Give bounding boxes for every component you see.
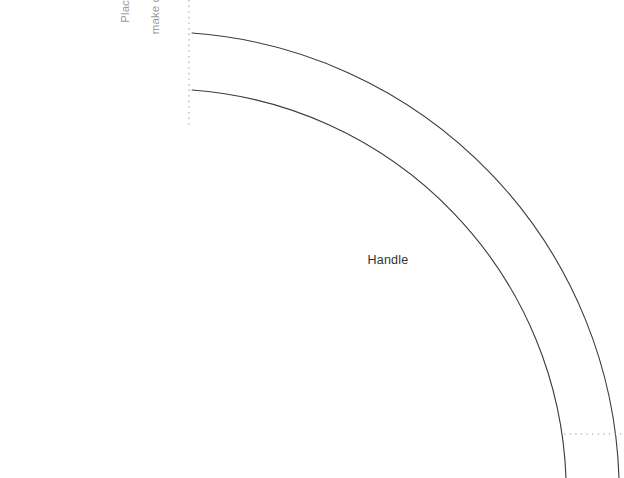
pattern-canvas: Place on fold or flip to make complete p… [0, 0, 624, 478]
handle-inner-curve [192, 90, 566, 478]
pattern-drawing [0, 0, 624, 478]
